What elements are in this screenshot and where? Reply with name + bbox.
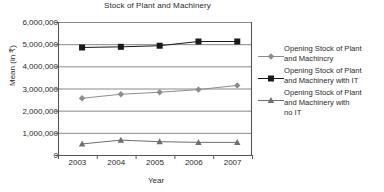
legend-label: Opening Stock of Plantand Machinery with… bbox=[284, 88, 362, 117]
data-point-square bbox=[79, 44, 85, 50]
legend-marker-triangle-icon bbox=[258, 91, 284, 100]
legend-item[interactable]: Opening Stock of Plantand Machinery with… bbox=[258, 66, 384, 85]
legend-label-line: Opening Stock of Plant bbox=[284, 44, 362, 54]
legend-item[interactable]: Opening Stock of Plantand Machinery with… bbox=[258, 88, 384, 117]
data-point-diamond bbox=[268, 53, 274, 59]
x-axis-title: Year bbox=[60, 176, 252, 185]
data-point-diamond bbox=[118, 91, 124, 97]
chart-legend: Opening Stock of Plantand MachincryOpeni… bbox=[258, 44, 384, 120]
legend-label-line: Opening Stock of Plant bbox=[284, 88, 362, 98]
data-point-square bbox=[118, 44, 124, 50]
legend-label-line: Opening Stock of Plant bbox=[284, 66, 362, 76]
data-point-diamond bbox=[156, 89, 162, 95]
legend-label-line: and Machinery with IT bbox=[284, 76, 362, 86]
legend-label: Opening Stock of Plantand Machinery with… bbox=[284, 66, 362, 85]
legend-item[interactable]: Opening Stock of Plantand Machincry bbox=[258, 44, 384, 63]
legend-label: Opening Stock of Plantand Machincry bbox=[284, 44, 362, 63]
x-tick-label: 2003 bbox=[68, 158, 86, 167]
x-tick-label: 2006 bbox=[185, 158, 203, 167]
chart-container: Stock of Plant and Machinery Mean (in ₹)… bbox=[0, 0, 384, 192]
x-tick-label: 2007 bbox=[224, 158, 242, 167]
data-point-square bbox=[234, 39, 240, 45]
legend-label-line: and Machinery with bbox=[284, 98, 362, 108]
data-point-square bbox=[268, 76, 274, 82]
legend-label-line: and Machincry bbox=[284, 54, 362, 64]
legend-marker-square-icon bbox=[258, 69, 284, 78]
data-point-diamond bbox=[79, 95, 85, 101]
x-tick-label: 2005 bbox=[146, 158, 164, 167]
legend-label-line: no IT bbox=[284, 108, 362, 118]
data-point-diamond bbox=[195, 86, 201, 92]
data-point-square bbox=[195, 39, 201, 45]
data-point-square bbox=[157, 43, 163, 49]
data-point-diamond bbox=[234, 82, 240, 88]
legend-marker-diamond-icon bbox=[258, 47, 284, 56]
x-tick-label: 2004 bbox=[107, 158, 125, 167]
